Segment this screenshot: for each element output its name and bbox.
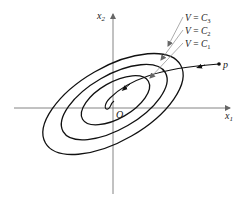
- level-curve-c2: [50, 49, 179, 155]
- level-label-c1: V = C1: [185, 39, 211, 50]
- origin-label: O: [116, 109, 123, 120]
- trajectory-curve: [105, 64, 219, 109]
- point-p-label: p: [222, 59, 228, 70]
- level-curve-c1: [74, 66, 158, 135]
- x1-axis-label: x1: [224, 110, 233, 123]
- level-label-c3: V = C3: [185, 13, 211, 24]
- leader-line-c2: [161, 30, 183, 60]
- leader-line-c3: [168, 17, 183, 46]
- trajectory-start-point: [217, 62, 221, 66]
- lyapunov-diagram: x2 x1 O p V = C3 V = C2 V = C1: [0, 0, 246, 206]
- level-label-c2: V = C2: [185, 26, 211, 37]
- x2-axis-label: x2: [96, 10, 105, 23]
- leader-line-c1: [150, 43, 183, 78]
